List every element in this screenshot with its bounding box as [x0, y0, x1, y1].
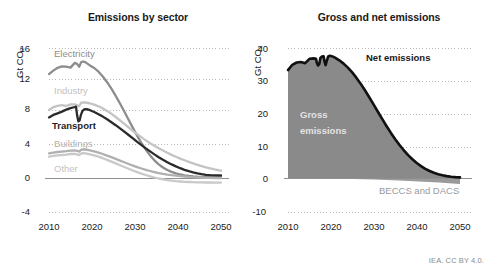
series-label-buildings: Buildings — [54, 139, 93, 149]
figure-credit: IEA. CC BY 4.0. — [429, 256, 484, 265]
series-label-other: Other — [54, 164, 78, 174]
series-label-net-emissions: Net emissions — [366, 53, 430, 63]
panel-gross-and-net-emissions: Gross and net emissions Gt CO₂ 40 30 20 … — [244, 0, 492, 271]
series-label-gross-line1: Gross — [300, 110, 327, 120]
panel-emissions-by-sector: Emissions by sector Gt CO₂ 16 12 8 4 0 -… — [0, 0, 250, 271]
series-label-industry: Industry — [54, 86, 88, 96]
series-label-beccs-and-dacs: BECCS and DACS — [379, 186, 459, 196]
series-label-gross-line2: emissions — [300, 126, 346, 136]
left-plot-area — [0, 0, 250, 271]
series-label-transport: Transport — [52, 121, 96, 131]
series-label-electricity: Electricity — [54, 49, 95, 59]
series-line-industry — [49, 102, 221, 170]
right-plot-area — [244, 0, 492, 271]
area-beccs-and-dacs — [288, 178, 460, 184]
figure-root: Emissions by sector Gt CO₂ 16 12 8 4 0 -… — [0, 0, 492, 271]
